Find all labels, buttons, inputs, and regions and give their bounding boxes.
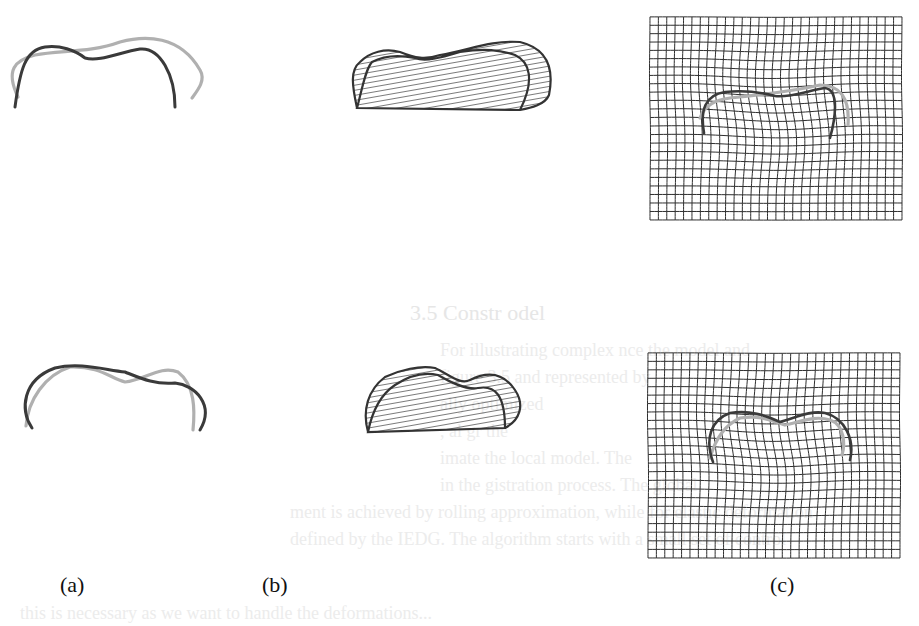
grid-line — [658, 17, 659, 220]
grid-line — [858, 17, 861, 220]
grid-line — [806, 17, 813, 220]
panel-b-displacement — [366, 367, 520, 432]
grid-line — [647, 412, 899, 415]
panel-label-a: (a) — [60, 572, 84, 598]
grid-line — [650, 169, 902, 171]
grid-line — [650, 34, 902, 35]
grid-line — [674, 17, 676, 220]
grid-line — [648, 395, 900, 397]
grid-line — [649, 480, 901, 483]
grid-line — [772, 17, 780, 220]
grid-line — [753, 353, 761, 558]
grid-line — [648, 506, 900, 508]
grid-line — [707, 17, 711, 220]
displacement-band — [353, 42, 551, 110]
grid-line — [664, 353, 666, 558]
grid-line — [648, 429, 900, 433]
panel-b-displacement — [353, 42, 551, 110]
grid-line — [648, 370, 900, 371]
grid-line — [901, 17, 902, 220]
grid-line — [762, 353, 770, 558]
grid-line — [650, 152, 902, 155]
grid-line — [650, 117, 902, 121]
grid-line — [755, 17, 763, 220]
grid-line — [747, 17, 754, 220]
grid-line — [648, 463, 900, 467]
grid-line — [648, 524, 900, 525]
registration-figure — [0, 0, 919, 626]
grid-line — [764, 17, 772, 220]
grid-line — [648, 437, 900, 441]
grid-line — [648, 515, 900, 516]
grid-line — [650, 100, 902, 104]
grid-line — [731, 17, 737, 220]
grid-line — [656, 353, 657, 558]
grid-line — [850, 17, 854, 220]
panel-label-b: (b) — [262, 572, 288, 598]
grid-line — [867, 17, 870, 220]
grid-line — [884, 17, 886, 220]
panel-a-curves — [12, 38, 202, 107]
grid-line — [650, 160, 902, 162]
grid-line — [650, 186, 902, 187]
grid-line — [865, 353, 868, 558]
grid-line — [804, 353, 811, 558]
grid-line — [649, 75, 901, 78]
panel-c-deformed-grid — [647, 353, 900, 558]
grid-line — [745, 353, 752, 558]
grid-line — [650, 83, 902, 87]
grid-line — [737, 353, 744, 558]
grid-line — [647, 353, 648, 558]
grid-line — [778, 353, 786, 558]
grid-line — [882, 353, 884, 558]
grid-line — [739, 17, 746, 220]
grid-line — [650, 50, 902, 52]
grid-line — [688, 353, 691, 558]
grid-line — [650, 134, 902, 138]
grid-line — [891, 353, 892, 558]
row-1 — [12, 17, 902, 220]
grid-line — [648, 454, 900, 458]
grid-line — [648, 378, 900, 379]
panel-a-curves — [25, 366, 205, 430]
grid-line — [899, 353, 900, 558]
grid-line — [651, 143, 903, 146]
grid-line — [648, 403, 900, 406]
grid-line — [874, 353, 876, 558]
panel-label-c: (c) — [770, 572, 794, 598]
grid-line — [650, 177, 902, 178]
grid-line — [648, 498, 900, 500]
displacement-band — [366, 367, 520, 432]
grid-line — [680, 353, 683, 558]
grid-line — [648, 387, 900, 389]
grid-line — [780, 17, 788, 220]
grid-line — [666, 17, 668, 220]
grid-line — [648, 471, 900, 475]
grid-line — [650, 59, 902, 61]
grid-line — [893, 17, 894, 220]
grid-line — [729, 353, 735, 558]
grid-line — [697, 353, 701, 558]
grid-line — [672, 353, 674, 558]
grid-line — [815, 17, 821, 220]
grid-line — [770, 353, 778, 558]
row-2 — [25, 353, 900, 558]
target-curve — [26, 367, 194, 430]
panel-c-deformed-grid — [649, 17, 902, 220]
grid-line — [876, 17, 878, 220]
grid-line — [813, 353, 819, 558]
grid-line — [650, 42, 902, 43]
grid-line — [690, 17, 693, 220]
grid-line — [648, 489, 900, 492]
grid-line — [649, 17, 650, 220]
grid-line — [650, 126, 902, 130]
grid-line — [650, 67, 902, 70]
grid-line — [787, 353, 795, 558]
grid-line — [789, 17, 797, 220]
grid-line — [682, 17, 685, 220]
grid-line — [796, 353, 803, 558]
grid-line — [856, 353, 859, 558]
grid-line — [798, 17, 805, 220]
grid-line — [705, 353, 709, 558]
